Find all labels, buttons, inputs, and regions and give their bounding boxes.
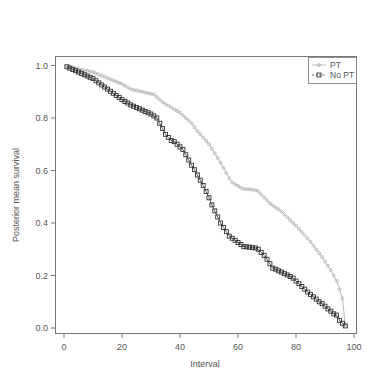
- y-tick-label: 0.8: [35, 113, 48, 123]
- x-tick-label: 80: [291, 342, 301, 352]
- x-axis-title: Interval: [190, 359, 220, 369]
- legend-label-pt: PT: [330, 60, 341, 70]
- x-tick-label: 40: [175, 342, 185, 352]
- survival-chart: 020406080100 0.00.20.40.60.81.0 Interval…: [0, 0, 372, 382]
- legend: PT No PT: [309, 58, 357, 84]
- y-axis-title: Posterior mean survival: [11, 148, 21, 242]
- x-axis: 020406080100: [61, 334, 361, 352]
- x-tick-label: 20: [117, 342, 127, 352]
- series-no-pt: [65, 65, 347, 328]
- x-tick-label: 100: [346, 342, 361, 352]
- y-tick-label: 0.2: [35, 271, 48, 281]
- y-tick-label: 0.6: [35, 166, 48, 176]
- y-tick-label: 0.4: [35, 218, 48, 228]
- y-axis: 0.00.20.40.60.81.0: [35, 61, 55, 334]
- legend-label-no-pt: No PT: [330, 70, 354, 80]
- series-layer: [65, 65, 347, 328]
- y-tick-label: 0.0: [35, 323, 48, 333]
- y-tick-label: 1.0: [35, 61, 48, 71]
- x-tick-label: 60: [233, 342, 243, 352]
- x-tick-label: 0: [61, 342, 66, 352]
